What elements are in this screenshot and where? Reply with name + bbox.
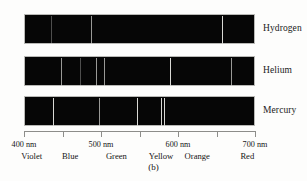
spectral-line [104,58,105,86]
wavelength-label: 700 nm [237,140,273,149]
wavelength-label: 400 nm [6,140,42,149]
wavelength-label: 600 nm [160,140,196,149]
spectral-line [99,98,100,126]
element-label-hydrogen: Hydrogen [263,23,302,33]
color-band-label-red: Red [227,151,267,161]
color-band-label-orange: Orange [177,151,217,161]
element-label-mercury: Mercury [263,105,296,115]
color-band-label-violet: Violet [12,151,52,161]
spectrum-bar-helium [24,56,255,86]
color-band-label-blue: Blue [50,151,90,161]
figure-caption: (b) [0,162,307,172]
axis-tick [140,131,141,137]
spectral-line [231,58,232,86]
axis-tick [178,131,179,137]
spectral-line [222,16,223,44]
axis-tick [24,131,25,137]
spectrum-row: Mercury [24,96,255,126]
spectral-line [164,98,165,126]
spectral-line [91,16,92,44]
color-band-label-yellow: Yellow [141,151,181,161]
axis-tick [255,131,256,137]
spectral-line [170,58,171,86]
spectral-line [137,98,138,126]
spectral-line [61,58,62,86]
spectrum-bar-mercury [24,96,255,126]
emission-spectra-figure: HydrogenHeliumMercury 400 nm500 nm600 nm… [0,0,307,181]
axis-tick [63,131,64,137]
color-band-label-green: Green [96,151,136,161]
axis-tick [101,131,102,137]
spectrum-row: Helium [24,56,255,86]
spectral-line [161,98,162,126]
wavelength-label: 500 nm [83,140,119,149]
axis-tick [217,131,218,137]
spectral-line [51,16,52,44]
spectral-line [96,58,97,86]
spectrum-row: Hydrogen [24,14,255,44]
spectral-line [80,58,81,86]
spectral-line [53,98,54,126]
spectrum-bar-hydrogen [24,14,255,44]
element-label-helium: Helium [263,65,292,75]
